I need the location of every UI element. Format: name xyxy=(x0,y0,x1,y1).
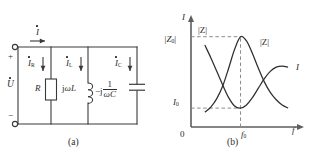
impedance-axis-note: |Z| xyxy=(198,26,207,35)
resistor-label: R xyxy=(35,84,41,93)
panel-a-caption: (a) xyxy=(68,137,79,147)
y-tick-current-min-sub: 0 xyxy=(176,101,179,107)
resistor-current-subscript: R xyxy=(31,62,35,68)
negative-terminal-sign: − xyxy=(8,111,13,120)
panel-resonance-plot: I f 0 |Z0| I0 f0 |Z| |Z| I (b) xyxy=(159,0,318,159)
impedance-curve-label: |Z| xyxy=(260,38,269,47)
inductor-current-symbol: I xyxy=(66,59,69,68)
resistor-current-label: IR xyxy=(28,59,35,69)
figure-container: I IR IL IC U + − R jωL −j1ωC (a) xyxy=(0,0,318,159)
inductor-current-label: IL xyxy=(66,59,72,69)
origin-label: 0 xyxy=(180,130,185,139)
current-arrow-capacitor xyxy=(128,57,133,71)
capacitor-label-minus-j: −j xyxy=(95,86,103,96)
current-curve-label: I xyxy=(296,63,299,72)
capacitor-label: −j1ωC xyxy=(95,80,117,100)
capacitor-label-fraction: 1ωC xyxy=(103,80,117,100)
inductor-current-subscript: L xyxy=(69,62,72,68)
y-axis-arrowhead xyxy=(188,15,194,22)
x-tick-resonant-frequency: f0 xyxy=(241,130,246,140)
y-tick-impedance-peak: |Z0| xyxy=(164,35,176,45)
current-arrow-inductor xyxy=(79,57,84,71)
total-current-label: I xyxy=(36,28,39,37)
y-tick-current-min: I0 xyxy=(173,98,179,108)
current-arrow-total xyxy=(30,39,45,44)
resistor-symbol xyxy=(46,79,57,100)
x-axis-arrowhead xyxy=(297,124,304,130)
inductor-symbol xyxy=(88,83,93,103)
negative-terminal-node xyxy=(12,121,17,126)
panel-b-caption: (b) xyxy=(227,137,238,147)
inductor-label-L: L xyxy=(71,83,76,93)
y-axis-label: I xyxy=(182,13,185,22)
source-voltage-symbol: U xyxy=(7,80,14,90)
capacitor-current-symbol: I xyxy=(115,59,118,68)
resistor-current-symbol: I xyxy=(28,59,31,68)
total-current-symbol: I xyxy=(36,28,39,37)
y-tick-impedance-peak-bar: | xyxy=(174,34,176,44)
circuit-schematic xyxy=(0,0,159,159)
inductor-label: jωL xyxy=(62,84,76,93)
capacitor-symbol xyxy=(129,84,145,90)
positive-terminal-node xyxy=(12,44,17,49)
x-tick-resonant-frequency-sub: 0 xyxy=(244,133,247,139)
source-voltage-label: U xyxy=(7,80,14,90)
panel-circuit-diagram: I IR IL IC U + − R jωL −j1ωC (a) xyxy=(0,0,159,159)
positive-terminal-sign: + xyxy=(8,52,13,61)
capacitor-fraction-denominator: ωC xyxy=(103,90,117,99)
x-axis-label: f xyxy=(292,126,295,135)
capacitor-current-subscript: C xyxy=(118,62,122,68)
current-arrow-resistor xyxy=(41,57,46,71)
capacitor-current-label: IC xyxy=(115,59,122,69)
